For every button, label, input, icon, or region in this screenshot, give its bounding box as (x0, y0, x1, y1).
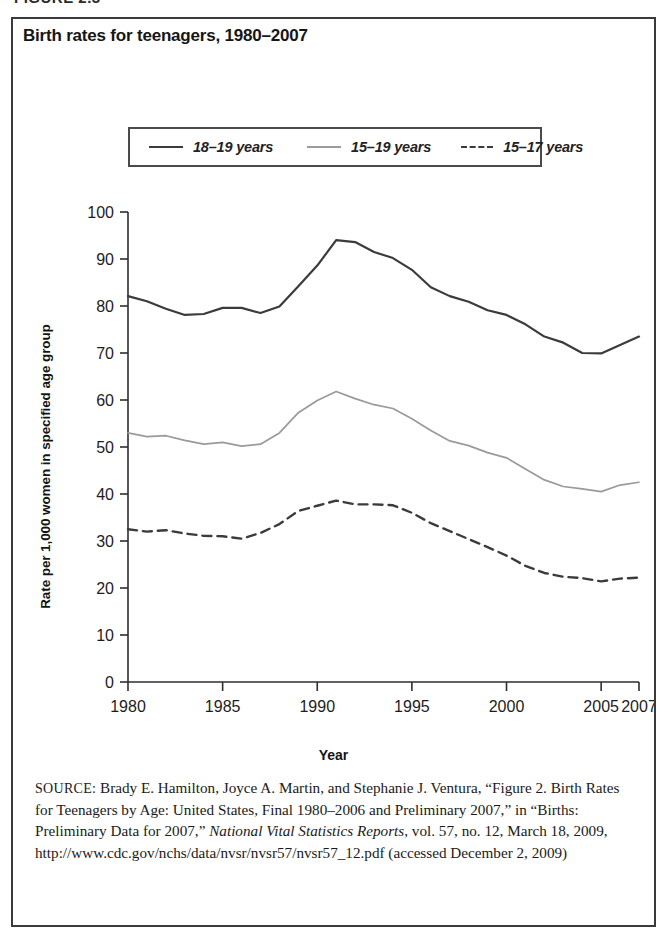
svg-text:20: 20 (96, 580, 114, 597)
source-publication-title: National Vital Statistics Reports (209, 822, 404, 839)
svg-text:60: 60 (96, 392, 114, 409)
series-line-18-19 (128, 240, 639, 353)
svg-text:80: 80 (96, 298, 114, 315)
source-note: SOURCE: Brady E. Hamilton, Joyce A. Mart… (35, 777, 635, 864)
series-line-15-19 (128, 392, 639, 492)
svg-text:90: 90 (96, 251, 114, 268)
svg-text:1990: 1990 (299, 698, 335, 715)
svg-text:100: 100 (87, 204, 114, 221)
svg-text:2005: 2005 (583, 698, 619, 715)
chart-axes (120, 212, 639, 691)
chart-tick-labels: 0102030405060708090100198019851990199520… (87, 204, 654, 715)
series-line-15-17 (128, 501, 639, 582)
source-kicker: SOURCE: (35, 781, 96, 796)
chart-series (128, 240, 639, 581)
x-axis-title: Year (13, 747, 654, 763)
figure-frame: Birth rates for teenagers, 1980–2007 18–… (11, 17, 656, 927)
svg-text:2007: 2007 (621, 698, 654, 715)
svg-text:1985: 1985 (205, 698, 241, 715)
svg-text:50: 50 (96, 439, 114, 456)
svg-text:10: 10 (96, 627, 114, 644)
svg-text:2000: 2000 (489, 698, 525, 715)
svg-text:40: 40 (96, 486, 114, 503)
svg-text:1980: 1980 (110, 698, 146, 715)
svg-text:70: 70 (96, 345, 114, 362)
svg-text:1995: 1995 (394, 698, 430, 715)
figure-header: FIGURE 2.3 (14, 0, 101, 3)
svg-text:30: 30 (96, 533, 114, 550)
svg-text:0: 0 (105, 674, 114, 691)
